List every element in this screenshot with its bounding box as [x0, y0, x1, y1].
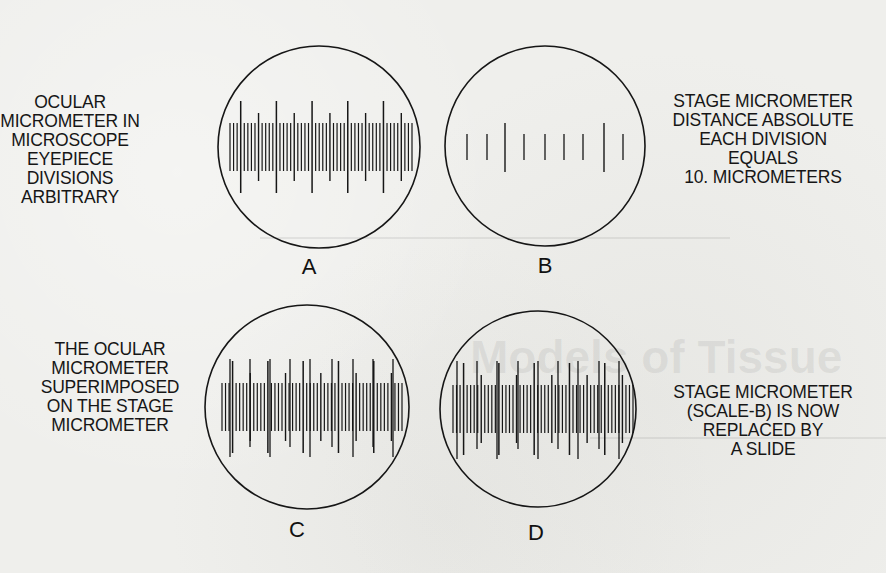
caption-line: STAGE MICROMETER — [640, 383, 886, 402]
stage-scale-ticks — [467, 123, 623, 172]
panel-label-a: A — [294, 254, 324, 280]
ocular-scale-ticks — [230, 101, 412, 193]
panel-label-c: C — [282, 517, 312, 543]
caption-line: OCULAR — [0, 93, 140, 112]
caption-line: DISTANCE ABSOLUTE — [640, 111, 886, 130]
caption-line: ARBITRARY — [0, 188, 140, 207]
caption-line: EQUALS — [640, 149, 886, 168]
caption-line: A SLIDE — [640, 440, 886, 459]
eyepiece-field-c — [202, 303, 412, 511]
caption-panel-a: OCULAR MICROMETER IN MICROSCOPE EYEPIECE… — [0, 93, 140, 207]
eyepiece-field-d — [439, 305, 639, 513]
caption-line: MICROMETER — [30, 416, 190, 435]
caption-line: (SCALE-B) IS NOW — [640, 402, 886, 421]
caption-line: ON THE STAGE — [30, 397, 190, 416]
caption-line: DIVISIONS — [0, 169, 140, 188]
caption-line: SUPERIMPOSED — [30, 378, 190, 397]
caption-line: MICROSCOPE — [0, 131, 140, 150]
panel-label-b: B — [530, 253, 560, 279]
eyepiece-field-a — [216, 43, 422, 251]
caption-line: STAGE MICROMETER — [640, 92, 886, 111]
caption-line: MICROMETER — [30, 359, 190, 378]
caption-line: REPLACED BY — [640, 421, 886, 440]
slide-scale-ticks — [453, 361, 633, 459]
caption-line: 10. MICROMETERS — [640, 168, 886, 187]
superimposed-scale-ticks — [222, 359, 402, 457]
panel-label-d: D — [521, 520, 551, 546]
caption-line: EYEPIECE — [0, 150, 140, 169]
caption-panel-b: STAGE MICROMETER DISTANCE ABSOLUTE EACH … — [640, 92, 886, 187]
eyepiece-field-b — [444, 42, 648, 250]
caption-line: MICROMETER IN — [0, 112, 140, 131]
caption-line: EACH DIVISION — [640, 130, 886, 149]
caption-line: THE OCULAR — [30, 340, 190, 359]
caption-panel-d: STAGE MICROMETER (SCALE-B) IS NOW REPLAC… — [640, 383, 886, 459]
caption-panel-c: THE OCULAR MICROMETER SUPERIMPOSED ON TH… — [30, 340, 190, 435]
